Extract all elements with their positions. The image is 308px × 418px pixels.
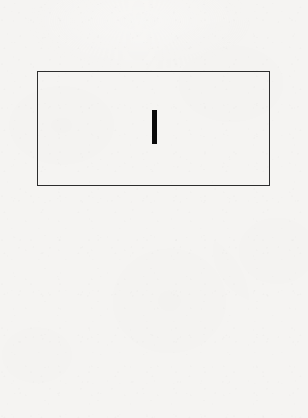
screen-canvas [0,0,308,418]
text-input-field[interactable] [37,71,270,186]
paper-mottle-overlay [0,0,308,418]
paper-texture-overlay [0,0,308,418]
